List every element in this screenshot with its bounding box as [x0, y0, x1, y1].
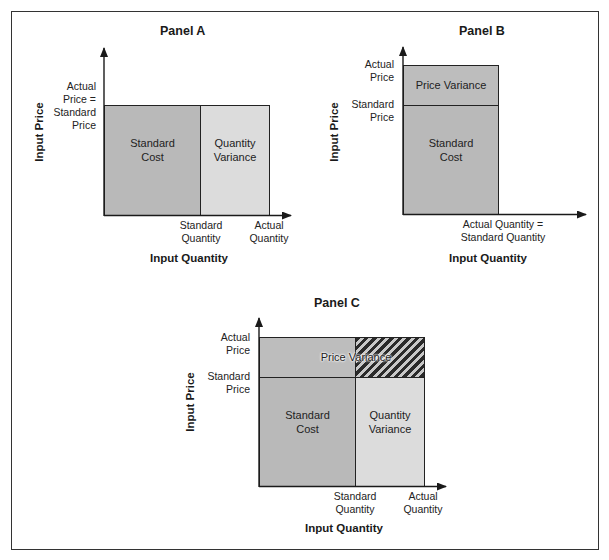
- panel-b-axes: [403, 47, 586, 215]
- panel-c-axes: [259, 318, 446, 487]
- axes-layer: [0, 0, 609, 560]
- panel-a-axes: [104, 48, 291, 216]
